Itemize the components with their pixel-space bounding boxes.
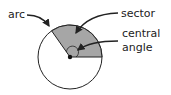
arc-label: arc bbox=[8, 8, 25, 21]
central-angle-label-line2: angle bbox=[122, 41, 153, 54]
arc-arrow bbox=[27, 15, 49, 26]
sector-label: sector bbox=[121, 7, 156, 20]
center-point bbox=[68, 55, 72, 59]
central-angle-label-line1: central bbox=[122, 27, 160, 40]
sector-diagram: arc sector central angle bbox=[0, 0, 171, 95]
